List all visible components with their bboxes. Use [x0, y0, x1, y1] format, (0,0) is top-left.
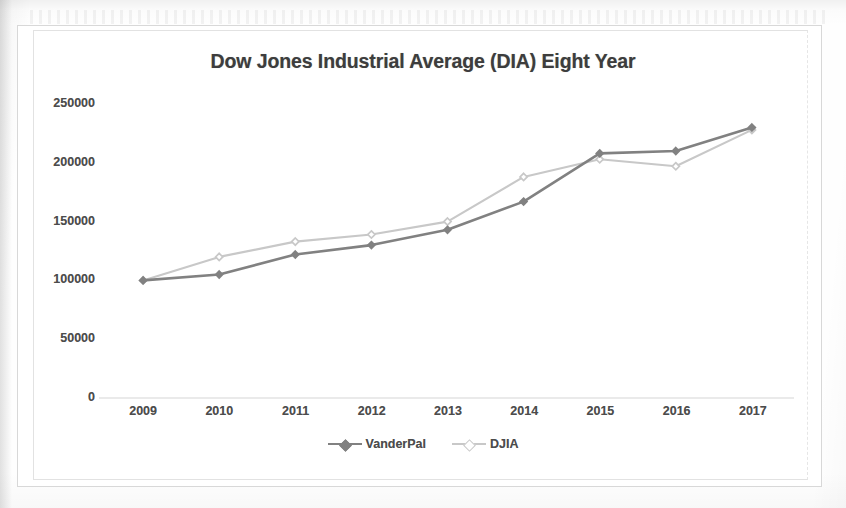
data-point-djia-2011	[292, 238, 299, 245]
legend-entry-djia[interactable]: DJIA	[452, 437, 518, 451]
series-line-vanderpal	[143, 128, 752, 281]
x-axis-tick-label: 2016	[639, 404, 715, 426]
data-point-vanderpal-2011	[292, 251, 299, 258]
data-point-vanderpal-2016	[672, 148, 679, 155]
legend-entry-vanderpal[interactable]: VanderPal	[328, 437, 426, 451]
x-axis-tick-label: 2015	[562, 404, 638, 426]
x-axis-tick-label: 2017	[715, 404, 791, 426]
data-point-djia-2012	[368, 231, 375, 238]
legend-swatch-icon	[328, 439, 362, 450]
data-point-vanderpal-2012	[368, 242, 375, 249]
legend-label: VanderPal	[366, 437, 426, 451]
data-point-vanderpal-2009	[140, 277, 147, 284]
data-point-vanderpal-2010	[216, 271, 223, 278]
data-point-vanderpal-2013	[444, 226, 451, 233]
line-chart-svg	[0, 0, 846, 508]
x-axis-tick-label: 2011	[257, 404, 333, 426]
x-axis-tick-label: 2012	[334, 404, 410, 426]
data-point-djia-2010	[216, 253, 223, 260]
legend-label: DJIA	[490, 437, 518, 451]
x-axis-tick-label: 2014	[486, 404, 562, 426]
chart-legend: VanderPalDJIA	[0, 437, 846, 451]
x-axis-tick-label: 2013	[410, 404, 486, 426]
x-axis-tick-label: 2010	[181, 404, 257, 426]
chart-plot-area	[0, 0, 846, 508]
data-point-djia-2016	[672, 163, 679, 170]
legend-swatch-icon	[452, 439, 486, 450]
x-axis-tick-label: 2009	[105, 404, 181, 426]
x-axis: 200920102011201220132014201520162017	[105, 404, 791, 426]
